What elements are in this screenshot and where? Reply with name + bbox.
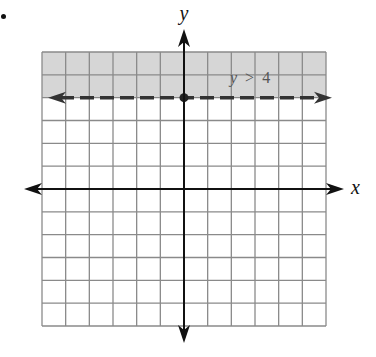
inequality-value: 4 xyxy=(262,69,270,86)
inequality-op: > xyxy=(245,69,254,86)
inequality-graph: y x y > 4 xyxy=(0,0,376,357)
y-axis-label: y xyxy=(178,2,189,25)
inequality-var: y xyxy=(228,69,238,87)
inequality-label: y > 4 xyxy=(228,69,270,87)
x-axis-label: x xyxy=(350,176,360,198)
